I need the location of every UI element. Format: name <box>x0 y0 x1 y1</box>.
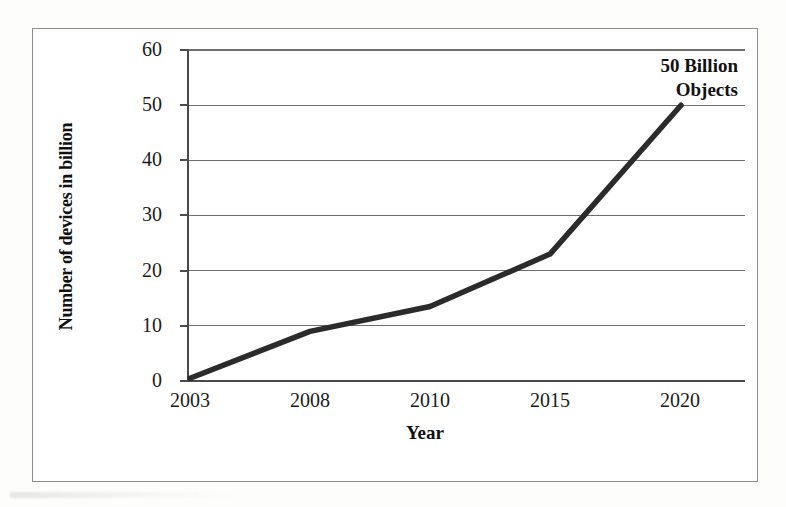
annotation-line-1: 50 Billion <box>560 54 738 78</box>
figure-canvas: 60 50 40 30 20 10 0 2003 2008 2010 2015 … <box>0 0 786 507</box>
y-tick-label-40: 40 <box>112 148 162 171</box>
x-tick-label-2015: 2015 <box>505 389 595 412</box>
endpoint-annotation: 50 Billion Objects <box>560 54 738 103</box>
x-tick-label-2008: 2008 <box>265 389 355 412</box>
y-axis-title: Number of devices in billion <box>56 97 77 357</box>
y-tick-label-10: 10 <box>112 314 162 337</box>
x-axis-title: Year <box>375 422 475 444</box>
x-tick-label-2010: 2010 <box>385 389 475 412</box>
x-tick-label-2003: 2003 <box>145 389 235 412</box>
y-tick-label-60: 60 <box>112 38 162 61</box>
y-tick-marks <box>180 50 188 381</box>
annotation-line-2: Objects <box>560 78 738 102</box>
y-tick-label-20: 20 <box>112 259 162 282</box>
y-tick-label-30: 30 <box>112 203 162 226</box>
x-tick-label-2020: 2020 <box>635 389 725 412</box>
y-tick-label-50: 50 <box>112 93 162 116</box>
data-series-line <box>190 105 681 378</box>
